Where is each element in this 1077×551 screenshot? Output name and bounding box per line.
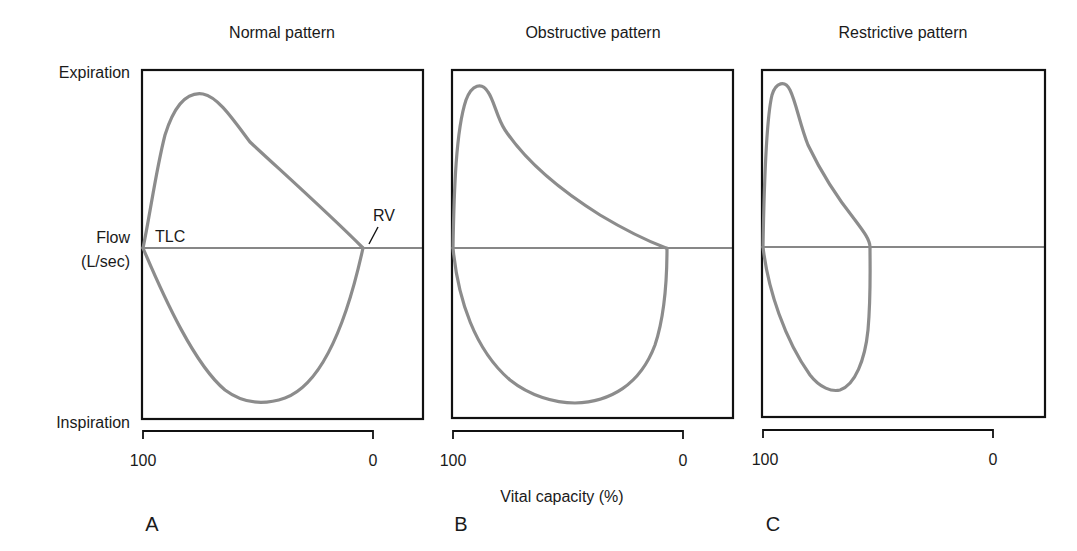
annotation-rv: RV bbox=[373, 207, 395, 224]
vc-scale-bar-obstructive bbox=[453, 431, 683, 439]
inspiratory-curve-obstructive bbox=[453, 248, 667, 403]
y-label-inspiration: Inspiration bbox=[56, 414, 130, 431]
annotation-tlc: TLC bbox=[155, 228, 185, 245]
tick-100-normal: 100 bbox=[130, 452, 157, 469]
vc-scale-bar-normal bbox=[143, 431, 373, 439]
expiratory-curve-normal bbox=[143, 94, 363, 248]
tick-100-obstructive: 100 bbox=[440, 452, 467, 469]
panel-letter-b: B bbox=[454, 513, 467, 535]
panel-letter-c: C bbox=[766, 513, 780, 535]
inspiratory-curve-restrictive bbox=[763, 247, 870, 390]
y-label-flow: Flow bbox=[96, 229, 130, 246]
expiratory-curve-obstructive bbox=[453, 86, 666, 248]
x-axis-label: Vital capacity (%) bbox=[500, 488, 623, 505]
inspiratory-curve-normal bbox=[143, 248, 363, 403]
panel-title-restrictive: Restrictive pattern bbox=[839, 24, 968, 41]
panel-letter-a: A bbox=[145, 513, 159, 535]
y-label-flow-unit: (L/sec) bbox=[81, 253, 130, 270]
tick-100-restrictive: 100 bbox=[752, 451, 779, 468]
vc-scale-bar-restrictive bbox=[763, 430, 993, 438]
tick-0-restrictive: 0 bbox=[989, 451, 998, 468]
tick-0-obstructive: 0 bbox=[679, 452, 688, 469]
flow-volume-loop-figure: Expiration Flow (L/sec) Inspiration Norm… bbox=[0, 0, 1077, 551]
y-label-expiration: Expiration bbox=[59, 64, 130, 81]
panel-restrictive: Restrictive pattern 100 0 C bbox=[752, 24, 1045, 535]
rv-pointer-line bbox=[369, 227, 378, 244]
panel-normal: Normal pattern TLC RV 100 0 A bbox=[130, 24, 423, 535]
tick-0-normal: 0 bbox=[369, 452, 378, 469]
panel-obstructive: Obstructive pattern 100 0 Vital capacity… bbox=[440, 24, 733, 535]
panel-title-obstructive: Obstructive pattern bbox=[525, 24, 660, 41]
expiratory-curve-restrictive bbox=[763, 84, 870, 247]
panel-title-normal: Normal pattern bbox=[229, 24, 335, 41]
